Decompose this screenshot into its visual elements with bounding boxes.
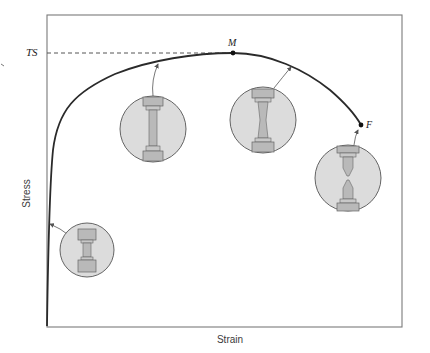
diagram-canvas	[0, 0, 430, 353]
specimen-inset-elastic	[60, 223, 114, 277]
stress-strain-diagram: TS M F Stress Strain	[0, 0, 430, 353]
f-label: F	[366, 119, 372, 130]
stress-strain-curve	[47, 53, 361, 326]
specimen-inset-fracture	[315, 145, 381, 211]
leader-arrow-uniform	[153, 64, 158, 96]
leader-arrow-necking	[274, 67, 291, 88]
stray-mark	[1, 64, 4, 66]
ts-label: TS	[26, 46, 38, 58]
m-label: M	[228, 37, 236, 48]
max-point-m	[231, 51, 236, 56]
y-axis-label: Stress	[21, 172, 32, 216]
specimen-inset-necking	[230, 87, 296, 153]
specimen-inset-uniform	[120, 96, 186, 162]
fracture-point-f	[359, 123, 364, 128]
leader-arrow-fracture	[354, 130, 358, 145]
x-axis-label: Strain	[212, 334, 248, 345]
